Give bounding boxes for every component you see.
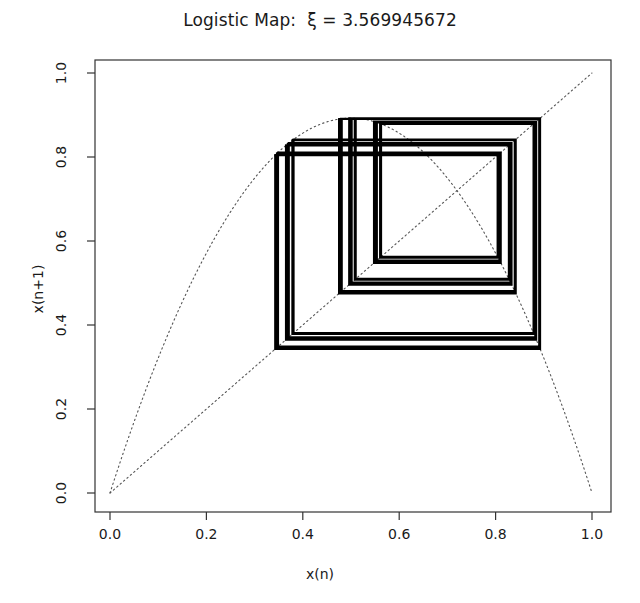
x-tick-label: 0.4 xyxy=(273,526,333,542)
x-axis-label: x(n) xyxy=(0,566,640,582)
page-title: Logistic Map: ξ = 3.569945672 xyxy=(0,10,640,30)
y-tick-label: 0.6 xyxy=(52,211,70,271)
y-tick-label: 0.4 xyxy=(52,295,70,355)
x-tick-label: 0.6 xyxy=(369,526,429,542)
x-tick-label: 0.2 xyxy=(176,526,236,542)
x-tick-label: 1.0 xyxy=(562,526,622,542)
x-tick-label: 0.0 xyxy=(80,526,140,542)
plot-canvas xyxy=(0,0,640,603)
y-tick-label: 0.8 xyxy=(52,127,70,187)
x-tick-label: 0.8 xyxy=(466,526,526,542)
y-axis-label: x(n+1) xyxy=(30,214,46,364)
y-tick-label: 1.0 xyxy=(52,43,70,103)
y-tick-label: 0.2 xyxy=(52,379,70,439)
logistic-map-figure: Logistic Map: ξ = 3.569945672 0.00.20.40… xyxy=(0,0,640,603)
y-tick-label: 0.0 xyxy=(52,463,70,523)
